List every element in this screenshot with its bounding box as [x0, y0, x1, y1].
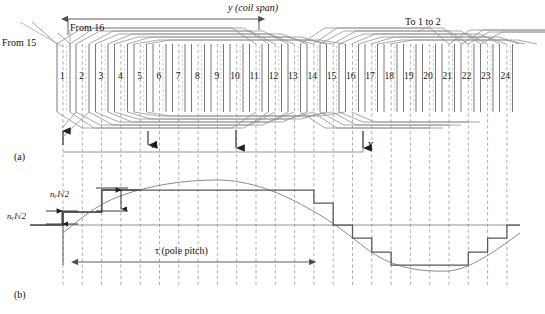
slot-number-21: 21: [443, 72, 453, 82]
coil-span-label: y (coil span): [228, 3, 278, 13]
from-16-label: From 16: [70, 23, 104, 33]
slot-number-19: 19: [404, 72, 414, 82]
slot-number-3: 3: [99, 72, 104, 82]
amplitude-label-upper: ncI√2: [50, 190, 69, 200]
slot-number-4: 4: [118, 72, 123, 82]
slot-number-17: 17: [365, 72, 375, 82]
coil-endturns-bottom-right: [301, 112, 481, 128]
coil-endturns-bottom-left: [57, 112, 345, 128]
slot-number-1: 1: [60, 72, 65, 82]
slot-number-11: 11: [250, 72, 259, 82]
amplitude-rest-upper: I√2: [57, 189, 69, 199]
slot-number-6: 6: [157, 72, 162, 82]
panel-a-label: (a): [14, 152, 25, 162]
figure-root: y (coil span) From 15 From 16 To 1 to 2 …: [0, 0, 545, 314]
panel-b-label: (b): [14, 290, 26, 300]
slot-number-16: 16: [346, 72, 356, 82]
amplitude-label-lower: ncI√2: [7, 212, 26, 222]
amplitude-bracket-lower: [46, 211, 78, 224]
amplitude-rest-lower: I√2: [14, 211, 26, 221]
slot-number-24: 24: [500, 72, 510, 82]
slot-number-20: 20: [423, 72, 433, 82]
from-15-label: From 15: [2, 38, 36, 48]
coil-endturns-top-right: [301, 28, 538, 44]
slot-number-14: 14: [307, 72, 317, 82]
slot-number-8: 8: [195, 72, 200, 82]
slot-number-12: 12: [269, 72, 279, 82]
slot-grid-dashed: [63, 44, 507, 287]
slot-number-5: 5: [137, 72, 142, 82]
slot-number-18: 18: [385, 72, 395, 82]
slot-number-7: 7: [176, 72, 181, 82]
winding-diagram-canvas: [0, 0, 545, 314]
terminal-a-label: A: [152, 140, 158, 150]
slot-number-23: 23: [481, 72, 491, 82]
incoming-leads-left: [32, 22, 70, 44]
current-path-baseline: [63, 131, 363, 152]
slot-number-15: 15: [327, 72, 337, 82]
pole-pitch-label: τ (pole pitch): [155, 246, 208, 256]
slot-number-9: 9: [214, 72, 219, 82]
fundamental-sine-curve: [63, 180, 520, 271]
slot-number-10: 10: [230, 72, 240, 82]
slot-number-2: 2: [79, 72, 84, 82]
to-1-to-2-label: To 1 to 2: [405, 17, 441, 27]
slot-number-13: 13: [288, 72, 298, 82]
terminal-x-label: X: [367, 141, 373, 151]
slot-number-22: 22: [462, 72, 472, 82]
terminal-arrows: [63, 130, 363, 148]
